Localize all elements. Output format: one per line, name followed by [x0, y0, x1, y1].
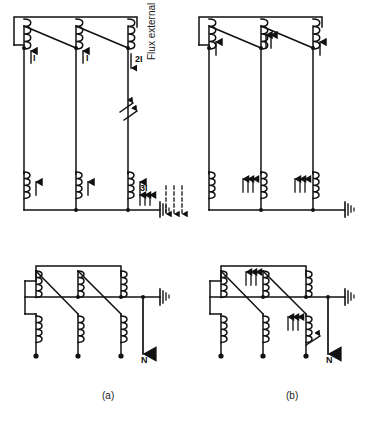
panel-b2-terminal-3	[303, 353, 308, 358]
panel-b2-zig-2	[263, 271, 306, 314]
panel-a-top-coil2	[76, 19, 83, 49]
label-neutral-b: N	[326, 355, 333, 365]
panel-a-bot-coil1	[24, 172, 30, 198]
panel-b-top-coil2	[261, 19, 268, 49]
panel-b2-coilL1	[221, 316, 227, 342]
panel-b2-ground-icon	[345, 289, 354, 305]
panel-b2-arrow-u2	[246, 272, 256, 285]
panel-a-3I-arrows	[140, 195, 150, 205]
panel-a-node-3	[126, 46, 130, 50]
panel-a-top-coil1	[24, 19, 31, 49]
panel-b2-terminal-1	[218, 353, 223, 358]
panel-b-top-circuit	[199, 17, 354, 217]
panel-a2-coilL1	[36, 316, 42, 342]
panel-b-arrow-b2	[243, 179, 253, 192]
panel-b2-node-m2	[261, 295, 265, 299]
transformer-flux-figure	[0, 0, 369, 424]
panel-b2-fault-arc-icon	[306, 336, 320, 345]
panel-a-ground-icon	[160, 202, 169, 217]
panel-b-top-coil3	[313, 19, 320, 49]
panel-a-bottom-circuit	[25, 266, 169, 359]
label-current-3I: 3I	[140, 183, 148, 193]
panel-b2-node-m3	[304, 295, 308, 299]
panel-b2-coilL2	[263, 316, 269, 342]
panel-a-node-n2	[74, 208, 78, 212]
panel-a-bot-coil2	[76, 172, 82, 198]
panel-b-bot-coil3	[313, 172, 319, 198]
panel-a-diag-2-3	[76, 26, 128, 48]
caption-panel-a: (a)	[102, 390, 114, 401]
panel-a-bot-coil3	[128, 172, 134, 198]
panel-b-node-1	[207, 46, 211, 50]
panel-b2-arrow-l3	[288, 317, 298, 330]
label-neutral-a: N	[141, 355, 148, 365]
label-current-I-phase2: I	[86, 53, 89, 63]
panel-b2-terminal-2	[260, 353, 265, 358]
panel-b-node-3	[311, 46, 315, 50]
panel-b-node-n2	[259, 208, 263, 212]
panel-b-ground-icon	[345, 202, 354, 217]
panel-a2-zig-2	[78, 271, 121, 314]
panel-a-top-coil3	[128, 19, 135, 49]
panel-a-node-1	[22, 46, 26, 50]
label-flux-external-to-core: Flux external to core	[146, 0, 160, 60]
panel-b-node-n3	[311, 208, 315, 212]
label-current-2I: 2I	[135, 54, 143, 64]
caption-panel-b: (b)	[286, 390, 298, 401]
panel-a2-coilU3	[121, 271, 127, 297]
panel-b-arrow-t2	[266, 35, 271, 48]
panel-b-arrow-b3	[295, 179, 305, 192]
label-current-I-phase1: I	[33, 53, 36, 63]
panel-a2-terminal-1	[33, 353, 38, 358]
panel-b2-coilL3	[306, 316, 312, 342]
panel-a2-node-m2	[76, 295, 80, 299]
panel-b-diag-2-3	[261, 26, 313, 48]
panel-b-node-2	[259, 46, 263, 50]
panel-a2-coilL2	[78, 316, 84, 342]
panel-a-node-2	[74, 46, 78, 50]
panel-b-top-coil1	[209, 19, 216, 49]
panel-a2-terminal-2	[75, 353, 80, 358]
panel-b-diag-1-2	[209, 26, 261, 48]
panel-b2-coilU3	[306, 271, 312, 297]
panel-a2-coilL3	[121, 316, 127, 342]
panel-b-bottom-circuit	[210, 266, 354, 359]
panel-a2-terminal-3	[118, 353, 123, 358]
panel-a-diag-1-2	[24, 26, 76, 48]
panel-a-node-n3	[126, 208, 130, 212]
panel-b-bot-coil2	[261, 172, 267, 198]
panel-a2-node-m3	[119, 295, 123, 299]
panel-a2-ground-icon	[160, 289, 169, 305]
panel-b-bot-coil1	[209, 172, 215, 198]
